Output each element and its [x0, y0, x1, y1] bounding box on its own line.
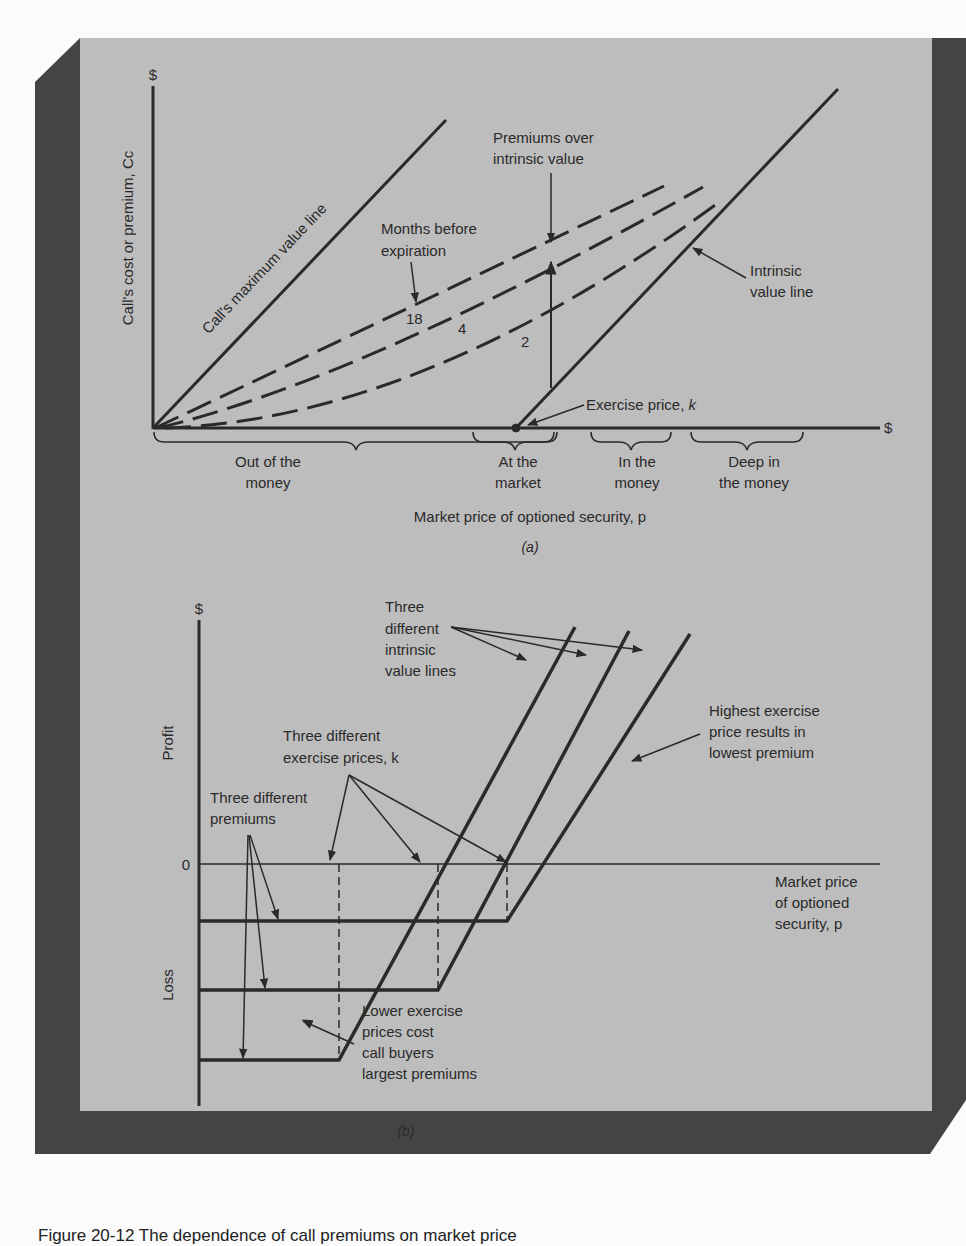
- profit-label: Profit: [159, 725, 176, 761]
- highest-label-3: lowest premium: [709, 744, 814, 761]
- lower-label-4: largest premiums: [362, 1065, 477, 1082]
- intrinsic-label-b-4: value lines: [385, 662, 456, 679]
- months-label-1: Months before: [381, 220, 477, 237]
- region-out-of-money-2: money: [245, 474, 291, 491]
- exercise-price-dot: [512, 424, 520, 432]
- x-axis-symbol: $: [884, 419, 893, 436]
- highest-label-1: Highest exercise: [709, 702, 820, 719]
- premiums-label-b-2: premiums: [210, 810, 276, 827]
- premiums-label-1: Premiums over: [493, 129, 594, 146]
- y-axis-symbol-b: $: [195, 600, 204, 617]
- x-axis-title: Market price of optioned security, p: [414, 508, 646, 525]
- intrinsic-label-2: value line: [750, 283, 813, 300]
- region-in-money-2: money: [614, 474, 660, 491]
- figure-caption: Figure 20-12 The dependence of call prem…: [38, 1226, 517, 1246]
- exercise-label-b-2: exercise prices, k: [283, 749, 399, 766]
- months-label-2: expiration: [381, 242, 446, 259]
- curve-label-18: 18: [406, 310, 423, 327]
- loss-label: Loss: [159, 969, 176, 1001]
- y-axis-title: Call's cost or premium, Cc: [119, 150, 136, 325]
- x-axis-title-b-3: security, p: [775, 915, 842, 932]
- panel-b-label: (b): [397, 1123, 414, 1139]
- premiums-label-2: intrinsic value: [493, 150, 584, 167]
- panel-a-label: (a): [521, 539, 538, 555]
- panel-background: [80, 38, 932, 1111]
- highest-label-2: price results in: [709, 723, 806, 740]
- lower-label-1: Lower exercise: [362, 1002, 463, 1019]
- region-in-money-1: In the: [618, 453, 656, 470]
- intrinsic-label-b-2: different: [385, 620, 440, 637]
- curve-label-2: 2: [521, 333, 529, 350]
- region-out-of-money-1: Out of the: [235, 453, 301, 470]
- x-axis-title-b-1: Market price: [775, 873, 858, 890]
- curve-label-4: 4: [458, 320, 466, 337]
- intrinsic-label-b-1: Three: [385, 598, 424, 615]
- intrinsic-label-1: Intrinsic: [750, 262, 802, 279]
- lower-label-2: prices cost: [362, 1023, 435, 1040]
- premiums-label-b-1: Three different: [210, 789, 308, 806]
- x-axis-title-b-2: of optioned: [775, 894, 849, 911]
- region-deep-2: the money: [719, 474, 790, 491]
- lower-label-3: call buyers: [362, 1044, 434, 1061]
- exercise-price-label: Exercise price, k: [586, 396, 698, 413]
- region-at-market-2: market: [495, 474, 542, 491]
- region-deep-1: Deep in: [728, 453, 780, 470]
- region-at-market-1: At the: [498, 453, 537, 470]
- exercise-label-b-1: Three different: [283, 727, 381, 744]
- zero-label: 0: [182, 856, 190, 873]
- y-axis-symbol: $: [149, 66, 158, 83]
- intrinsic-label-b-3: intrinsic: [385, 641, 436, 658]
